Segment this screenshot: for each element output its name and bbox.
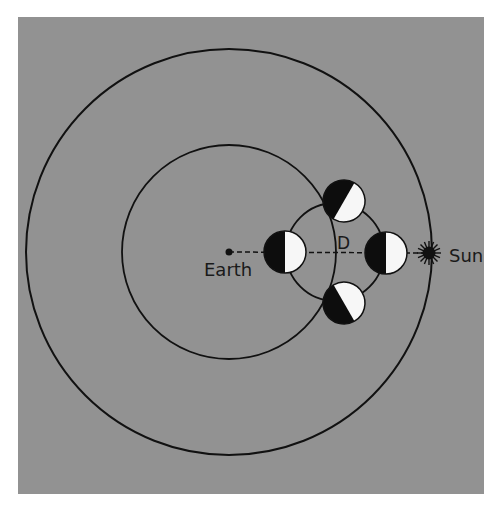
distance-label: D <box>337 233 350 253</box>
sun-label: Sun <box>449 245 483 266</box>
earth-dot-icon <box>226 249 233 256</box>
background-panel <box>18 17 484 494</box>
sun-starburst-icon <box>417 241 441 265</box>
orbit-diagram: Earth Sun D <box>0 0 499 506</box>
diagram-canvas: Earth Sun D <box>0 0 499 506</box>
moon-phase-right-icon <box>365 232 407 274</box>
earth-label: Earth <box>204 259 252 280</box>
moon-phase-left-icon <box>264 231 306 273</box>
